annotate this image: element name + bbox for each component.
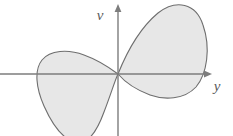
v-axis-arrow-icon xyxy=(115,4,122,12)
shaded-region xyxy=(37,5,207,136)
y-axis-label: y xyxy=(212,78,221,94)
v-axis-label: v xyxy=(97,7,104,23)
left-lobe-shape xyxy=(37,51,118,136)
right-lobe-shape xyxy=(118,5,207,98)
figure-container: v y xyxy=(0,0,233,136)
figure-canvas: v y xyxy=(0,0,233,136)
y-axis-arrow-icon xyxy=(204,71,212,78)
